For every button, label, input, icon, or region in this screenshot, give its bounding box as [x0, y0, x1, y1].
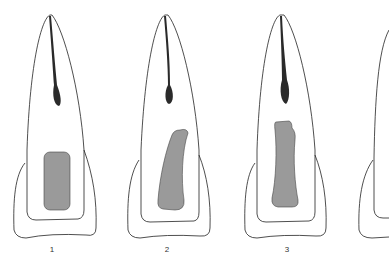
panel-label-2: 2 — [165, 245, 169, 254]
filling-3 — [272, 121, 298, 207]
filling-1 — [44, 152, 70, 210]
tooth-4-partial — [359, 30, 389, 238]
posts-fillings — [44, 121, 298, 210]
pulp-canals — [49, 16, 289, 106]
panel-label-1: 1 — [50, 245, 54, 254]
filling-2 — [158, 129, 188, 210]
tooth-diagram-figure: 1 2 3 — [0, 0, 389, 261]
tooth-drawings — [0, 0, 389, 261]
panel-label-3: 3 — [285, 245, 289, 254]
